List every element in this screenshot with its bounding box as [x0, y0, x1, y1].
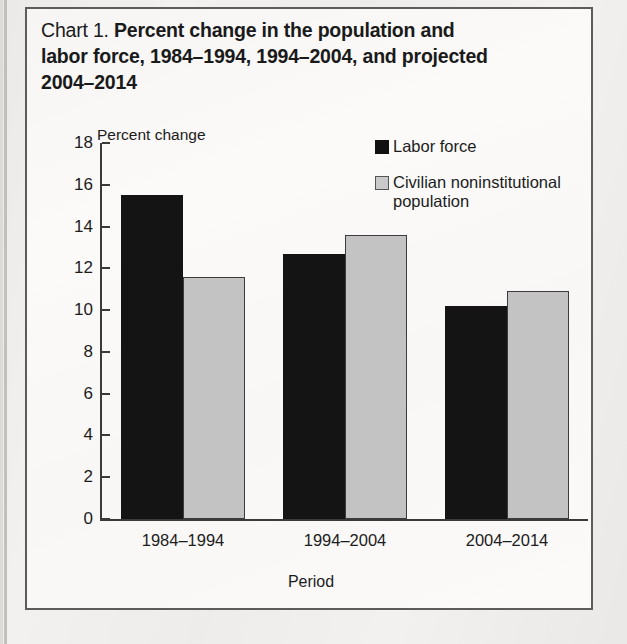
y-axis-title: Percent change [97, 126, 206, 144]
bar-population [507, 291, 569, 519]
plot-area: Percent change 024681012141618 1984–1994… [27, 9, 595, 612]
legend-label-population: Civilian noninstitutional population [393, 173, 590, 211]
bar-labor-force [121, 195, 183, 519]
x-axis-line [100, 519, 588, 521]
bar-population [183, 277, 245, 519]
x-axis-category-label: 2004–2014 [426, 531, 588, 550]
y-axis-tick-label-text: 16 [53, 175, 93, 195]
x-axis-category-label: 1994–2004 [264, 531, 426, 550]
y-axis-tick-label-text: 14 [53, 217, 93, 237]
y-axis-tick-label-text: 18 [53, 133, 93, 153]
scan-edge-artifact-outer [0, 0, 3, 644]
y-axis-tick-label-text: 4 [53, 425, 93, 445]
legend-label-labor-force: Labor force [393, 137, 476, 156]
x-axis-category-label: 1984–1994 [102, 531, 264, 550]
y-axis-tick-label-text: 6 [53, 384, 93, 404]
y-axis-tick-label-text: 12 [53, 258, 93, 278]
scanned-page-background: Chart 1. Percent change in the populatio… [0, 0, 627, 644]
y-axis-tick-label-text: 10 [53, 300, 93, 320]
chart-figure-box: Chart 1. Percent change in the populatio… [25, 7, 593, 610]
legend-item-population: Civilian noninstitutional population [375, 173, 590, 211]
legend-item-labor-force: Labor force [375, 137, 590, 156]
y-axis-tick-label-text: 2 [53, 467, 93, 487]
bar-population [345, 235, 407, 519]
scan-edge-artifact [4, 0, 7, 644]
x-axis-title: Period [27, 573, 595, 591]
y-axis-tick-label-text: 8 [53, 342, 93, 362]
y-axis-tick-label-text: 0 [53, 509, 93, 529]
legend-swatch-population-icon [375, 176, 389, 190]
legend: Labor force Civilian noninstitutional po… [375, 137, 590, 228]
legend-swatch-labor-force-icon [375, 140, 389, 154]
bar-labor-force [283, 254, 345, 519]
bar-labor-force [445, 306, 507, 519]
